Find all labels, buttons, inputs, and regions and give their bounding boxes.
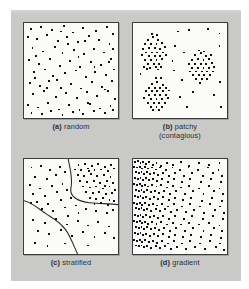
data-point	[148, 161, 150, 163]
data-point	[197, 58, 199, 60]
data-point	[90, 61, 92, 63]
data-point	[190, 234, 192, 236]
data-point	[192, 227, 194, 229]
data-point	[47, 102, 49, 104]
data-point	[140, 214, 142, 216]
data-point	[194, 54, 196, 56]
data-point	[207, 167, 209, 169]
data-point	[95, 30, 97, 32]
data-point	[191, 215, 193, 217]
data-point	[159, 94, 161, 96]
panel-a-random: (a) random	[23, 22, 119, 119]
data-point	[139, 220, 141, 222]
data-point	[220, 106, 222, 108]
data-point	[27, 104, 29, 106]
data-point	[156, 52, 158, 54]
data-point	[152, 178, 154, 180]
data-point	[143, 173, 145, 175]
data-point	[168, 90, 170, 92]
data-point	[40, 165, 42, 167]
data-point	[73, 49, 75, 51]
data-point	[184, 230, 186, 232]
data-point	[141, 241, 143, 243]
data-point	[161, 106, 163, 108]
data-point	[200, 181, 202, 183]
data-point	[51, 185, 53, 187]
data-point	[142, 216, 144, 218]
data-point	[159, 167, 161, 169]
data-point	[87, 225, 89, 227]
data-point	[172, 167, 174, 169]
data-point	[154, 87, 156, 89]
data-point	[221, 175, 223, 177]
data-point	[213, 227, 215, 229]
data-point	[182, 199, 184, 201]
data-point	[150, 210, 152, 212]
data-point	[156, 162, 158, 164]
data-point	[191, 59, 193, 61]
data-point	[157, 217, 159, 219]
data-point	[52, 210, 54, 212]
data-point	[222, 193, 224, 195]
data-point	[106, 212, 108, 214]
data-point	[86, 181, 88, 183]
data-point	[48, 233, 50, 235]
data-point	[88, 170, 90, 172]
data-point	[188, 63, 190, 65]
data-point	[158, 109, 160, 111]
data-point	[92, 192, 94, 194]
data-point	[161, 98, 163, 100]
data-point	[140, 73, 142, 75]
data-point	[205, 63, 207, 65]
data-point	[208, 58, 210, 60]
data-point	[157, 174, 159, 176]
data-point	[209, 203, 211, 205]
data-point	[164, 245, 166, 247]
data-point	[156, 223, 158, 225]
data-point	[94, 169, 96, 171]
data-point	[137, 233, 139, 235]
data-point	[153, 233, 155, 235]
data-point	[107, 204, 109, 206]
data-point	[111, 192, 113, 194]
data-point	[88, 35, 90, 37]
data-point	[223, 249, 225, 251]
data-point	[198, 224, 200, 226]
data-point	[31, 167, 33, 169]
data-point	[149, 198, 151, 200]
data-point	[112, 209, 114, 211]
data-point	[210, 54, 212, 56]
data-point	[145, 52, 147, 54]
panel-b-patchy: (b) patchy (contagious)	[132, 22, 228, 119]
data-point	[155, 245, 157, 247]
data-point	[220, 237, 222, 239]
data-point	[157, 69, 159, 71]
data-point	[86, 91, 88, 93]
data-point	[157, 198, 159, 200]
data-point	[29, 82, 31, 84]
data-point	[198, 74, 200, 76]
data-point	[162, 215, 164, 217]
data-point	[94, 236, 96, 238]
data-point	[74, 169, 76, 171]
data-point	[140, 177, 142, 179]
data-point	[208, 164, 210, 166]
data-point	[78, 212, 80, 214]
data-point	[181, 181, 183, 183]
data-point	[166, 187, 168, 189]
data-point	[145, 177, 147, 179]
data-point	[188, 185, 190, 187]
data-point	[200, 63, 202, 65]
data-point	[101, 86, 103, 88]
data-point	[67, 215, 69, 217]
data-point	[98, 39, 100, 41]
data-point	[112, 33, 114, 35]
data-point	[212, 71, 214, 73]
data-point	[142, 179, 144, 181]
data-point	[76, 97, 78, 99]
data-point	[144, 166, 146, 168]
data-point	[175, 227, 177, 229]
data-point	[150, 228, 152, 230]
data-point	[222, 218, 224, 220]
data-point	[99, 108, 101, 110]
